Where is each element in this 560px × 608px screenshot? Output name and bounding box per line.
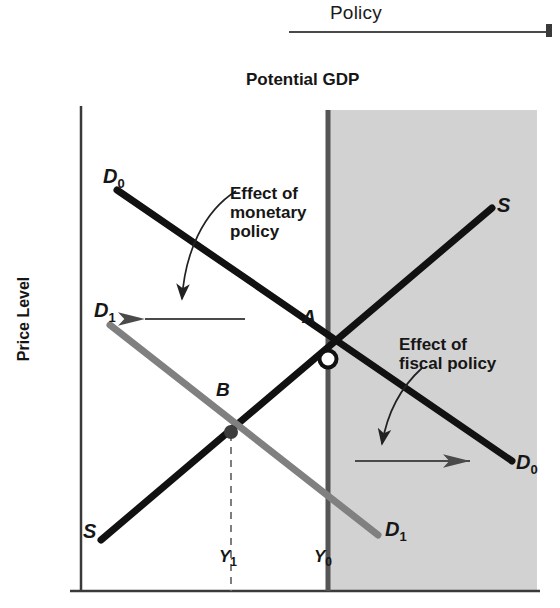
annotation-fiscal-line-1: Effect of bbox=[399, 335, 496, 354]
monetary-callout-arrow bbox=[182, 191, 236, 299]
x-tick-label-y1-subscript: 1 bbox=[230, 555, 237, 569]
page-header: Policy bbox=[0, 0, 560, 48]
annotation-fiscal-policy: Effect of fiscal policy bbox=[399, 335, 496, 373]
header-divider bbox=[289, 31, 549, 33]
x-tick-label-y0-letter: Y bbox=[314, 547, 325, 566]
curve-label-d0-right-letter: D bbox=[516, 451, 530, 473]
annotation-fiscal-line-2: fiscal policy bbox=[399, 354, 496, 373]
equilibrium-point-a bbox=[320, 351, 337, 368]
page-title: Policy bbox=[330, 2, 382, 24]
curve-label-d1-left-subscript: 1 bbox=[108, 310, 115, 325]
curve-label-s-bottom: S bbox=[83, 520, 96, 542]
annotation-monetary-line-1: Effect of bbox=[230, 184, 307, 203]
annotation-monetary-line-3: policy bbox=[230, 222, 307, 241]
curve-label-d1-left: D1 bbox=[94, 299, 116, 326]
curve-label-d1-bottom: D1 bbox=[385, 518, 407, 545]
curve-label-d0-top: D0 bbox=[103, 165, 125, 192]
point-label-b: B bbox=[216, 379, 230, 400]
curve-label-d0-top-subscript: 0 bbox=[117, 176, 124, 191]
curve-label-d0-right: D0 bbox=[516, 451, 538, 478]
potential-gdp-label: Potential GDP bbox=[246, 70, 359, 89]
x-tick-label-y0-subscript: 0 bbox=[325, 555, 332, 569]
curve-label-d1-bottom-letter: D bbox=[385, 518, 399, 540]
page-marker-icon bbox=[546, 24, 552, 37]
annotation-monetary-line-2: monetary bbox=[230, 203, 307, 222]
curve-label-d1-bottom-subscript: 1 bbox=[399, 529, 406, 544]
curve-label-d0-top-letter: D bbox=[103, 165, 117, 187]
page-root: Policy bbox=[0, 0, 560, 608]
curve-label-d0-right-subscript: 0 bbox=[530, 462, 537, 477]
economics-diagram: Potential GDP Price Level Real GDP D0 D1… bbox=[0, 48, 560, 608]
annotation-monetary-policy: Effect of monetary policy bbox=[230, 184, 307, 241]
x-tick-label-y0: Y0 bbox=[314, 547, 332, 570]
y-axis-label: Price Level bbox=[15, 264, 33, 374]
x-tick-label-y1-letter: Y bbox=[219, 547, 230, 566]
curve-label-s-top: S bbox=[497, 194, 510, 216]
curve-label-d1-left-letter: D bbox=[94, 299, 108, 321]
x-tick-label-y1: Y1 bbox=[219, 547, 237, 570]
point-label-a: A bbox=[302, 306, 316, 327]
equilibrium-point-b bbox=[224, 425, 238, 439]
